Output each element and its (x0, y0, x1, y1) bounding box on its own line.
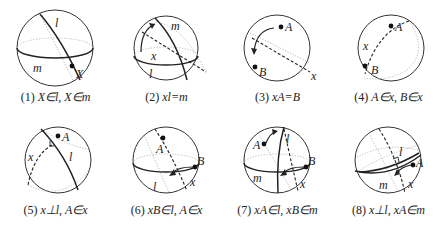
point-b-label: B (259, 65, 267, 79)
caption-2: (2) xl=m (111, 90, 222, 105)
caption-7: (7) xA∈l, xB∈m (222, 203, 333, 218)
reflector-x-label: x (362, 39, 369, 53)
point-x-label: X (75, 67, 84, 81)
point-a-label: A (61, 130, 70, 144)
reflector-x-label: x (310, 69, 317, 83)
reflector-x-label: x (189, 175, 196, 189)
line-l-label: l (69, 150, 73, 164)
point-a-label: A (394, 20, 403, 34)
reflector-x-label: x (299, 177, 306, 191)
panel-1: l m X (1) X∈l, X∈m (0, 0, 111, 114)
panel-4: A B x (4) A∈x, B∈x (333, 0, 444, 114)
line-m-label: m (171, 19, 180, 33)
caption-8: (8) x⊥l, xA∈m (333, 203, 444, 218)
line-m-label: m (33, 61, 42, 75)
reflector-x-label: x (407, 177, 414, 191)
line-m-label: m (379, 178, 388, 192)
reflector-x-label: x (150, 49, 157, 63)
line-l-label: l (399, 145, 403, 159)
point-b-label: B (197, 154, 205, 168)
caption-6: (6) xB∈l, A∈x (111, 203, 222, 218)
sphere-geometry-figure: l m X (1) X∈l, X∈m m l x (2) xl=m (0, 0, 444, 229)
panel-5: A l x (5) x⊥l, A∈x (0, 115, 111, 229)
line-m-label: m (253, 171, 262, 185)
panel-7: A B l m x (7) xA∈l, xB∈m (222, 115, 333, 229)
point-b-label: B (371, 63, 379, 77)
point-a-label: A (252, 138, 261, 152)
panel-6: A B l x (6) xB∈l, A∈x (111, 115, 222, 229)
panel-3: A B x (3) xA=B (222, 0, 333, 114)
line-l-label: l (286, 132, 290, 146)
point-a-label: A (415, 156, 424, 170)
caption-5: (5) x⊥l, A∈x (0, 203, 111, 218)
caption-3: (3) xA=B (222, 90, 333, 105)
line-l-label: l (55, 16, 59, 30)
caption-1: (1) X∈l, X∈m (0, 90, 111, 105)
panel-2: m l x (2) xl=m (111, 0, 222, 114)
caption-4: (4) A∈x, B∈x (333, 90, 444, 105)
point-b-label: B (308, 154, 316, 168)
reflector-x-label: x (27, 150, 34, 164)
point-a-label: A (155, 142, 164, 156)
panel-8: A l m x (8) x⊥l, xA∈m (333, 115, 444, 229)
point-a-label: A (284, 20, 293, 34)
line-l-label: l (149, 67, 153, 81)
